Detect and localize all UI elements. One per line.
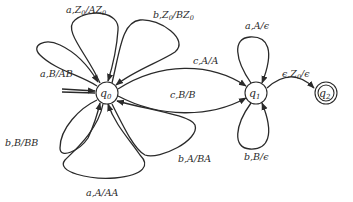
loop-q1-bB xyxy=(238,103,269,149)
state-q2: q2 xyxy=(315,82,337,104)
label-bB-eps: b,B/ϵ xyxy=(244,151,269,162)
label-bZ0-BZ0: b,Z0/BZ0 xyxy=(153,9,194,22)
state-q0: q0 xyxy=(96,82,118,104)
loop-q0-aB xyxy=(37,42,98,86)
label-aA-eps: a,A/ϵ xyxy=(245,20,270,31)
state-q1: q1 xyxy=(245,82,267,104)
label-cA-A: c,A/A xyxy=(193,55,218,66)
start-arrow xyxy=(62,89,95,91)
start-arrow-double xyxy=(62,92,95,93)
label-bB-BB: b,B/BB xyxy=(5,137,38,148)
label-cB-B: c,B/B xyxy=(170,89,196,100)
label-bA-BA: b,A/BA xyxy=(178,153,211,164)
pda-diagram: q0 q1 q2 a,Z0/AZ0 b,Z0/BZ0 a,B/AB b,B/BB… xyxy=(0,0,353,202)
loop-q1-aA xyxy=(238,37,269,83)
label-aA-AA: a,A/AA xyxy=(86,187,119,198)
label-eps-Z0-eps: ϵ,Z0/ϵ xyxy=(282,68,310,81)
label-aB-AB: a,B/AB xyxy=(40,68,73,79)
loop-q0-aZ0 xyxy=(71,13,118,83)
